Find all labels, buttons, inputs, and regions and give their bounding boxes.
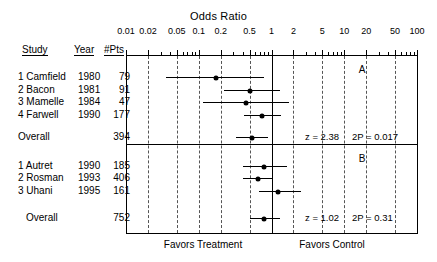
axis-tick [388, 52, 389, 55]
gridline [344, 56, 345, 233]
axis-tick [177, 50, 178, 55]
study-patients: 79 [104, 71, 130, 82]
study-year: 1980 [78, 71, 104, 82]
axis-tick [337, 52, 338, 55]
axis-tick [268, 52, 269, 55]
favors-treatment-label: Favors Treatment [164, 239, 242, 250]
axis-tick [195, 52, 196, 55]
study-name: 2 Bacon [18, 84, 55, 95]
study-patients: 161 [104, 185, 130, 196]
axis-tick-label: 0.01 [117, 26, 135, 36]
axis-tick [366, 50, 367, 55]
axis-tick [260, 52, 261, 55]
study-patients: 185 [104, 160, 130, 171]
axis-tick [322, 50, 323, 55]
study-name: 2 Rosman [18, 172, 64, 183]
effect-estimate-point [247, 88, 252, 93]
overall-z-statistic: z = 1.02 [305, 212, 339, 223]
axis-tick-label: 0.05 [168, 26, 186, 36]
gridline [177, 56, 178, 233]
overall-z-statistic: z = 2.38 [305, 131, 339, 142]
axis-tick [401, 52, 402, 55]
axis-tick-label: 2 [291, 26, 296, 36]
plot-right-border [417, 55, 418, 233]
axis-tick [161, 52, 162, 55]
axis-tick-label: 1 [269, 26, 274, 36]
study-year: 1990 [78, 160, 104, 171]
panel-letter-a: A [359, 64, 366, 75]
study-name: 1 Camfield [18, 71, 66, 82]
null-effect-line [272, 55, 273, 233]
axis-tick [414, 52, 415, 55]
forest-plot-figure: Odds Ratio 0.010.020.050.10.20.512510205… [0, 0, 437, 262]
study-name: 3 Mamelle [18, 96, 64, 107]
axis-tick [333, 52, 334, 55]
gridline [322, 56, 323, 233]
panel-letter-b: B [359, 153, 366, 164]
overall-label: Overall [26, 212, 58, 223]
study-patients: 47 [104, 96, 130, 107]
study-year: 1993 [78, 172, 104, 183]
axis-tick [379, 52, 380, 55]
axis-tick-label: 100 [409, 26, 424, 36]
axis-tick [255, 52, 256, 55]
gridline [250, 56, 251, 233]
study-patients: 177 [104, 109, 130, 120]
effect-estimate-point [213, 75, 218, 80]
gridline [221, 56, 222, 233]
column-header-study: Study [22, 44, 48, 56]
axis-tick [243, 52, 244, 55]
axis-tick [328, 52, 329, 55]
axis-tick [272, 50, 273, 55]
axis-bottom-line [126, 233, 418, 234]
axis-tick [250, 50, 251, 55]
axis-tick [341, 52, 342, 55]
gridline [395, 56, 396, 233]
axis-tick [315, 52, 316, 55]
effect-estimate-point [244, 100, 249, 105]
effect-estimate-point [262, 216, 267, 221]
study-name: 3 Uhani [18, 185, 52, 196]
axis-tick-label: 50 [390, 26, 400, 36]
effect-estimate-point [256, 176, 261, 181]
axis-tick [406, 52, 407, 55]
gridline [199, 56, 200, 233]
study-year: 1990 [78, 109, 104, 120]
study-patients: 91 [104, 84, 130, 95]
axis-tick-label: 10 [339, 26, 349, 36]
axis-tick-label: 0.5 [243, 26, 256, 36]
study-year: 1981 [78, 84, 104, 95]
column-header-year: Year [74, 44, 94, 56]
axis-tick-label: 0.1 [192, 26, 205, 36]
axis-tick [233, 52, 234, 55]
gridline [293, 56, 294, 233]
axis-tick [187, 52, 188, 55]
study-year: 1995 [78, 185, 104, 196]
axis-tick [344, 50, 345, 55]
effect-estimate-point [261, 164, 266, 169]
axis-tick [395, 50, 396, 55]
axis-tick [306, 52, 307, 55]
effect-estimate-point [260, 113, 265, 118]
axis-tick [264, 52, 265, 55]
gridline [148, 56, 149, 233]
study-name: 1 Autret [18, 160, 52, 171]
axis-tick-label: 5 [320, 26, 325, 36]
axis-tick-label: 0.02 [139, 26, 157, 36]
axis-tick [126, 50, 127, 55]
overall-patients: 752 [104, 212, 130, 223]
favors-control-label: Favors Control [299, 239, 365, 250]
axis-tick [293, 50, 294, 55]
column-header-npts: #Pts [104, 44, 124, 56]
overall-label: Overall [18, 131, 50, 142]
axis-tick [410, 52, 411, 55]
axis-tick [170, 52, 171, 55]
axis-tick [148, 50, 149, 55]
study-patients: 406 [104, 172, 130, 183]
axis-tick-label: 20 [361, 26, 371, 36]
effect-estimate-point [250, 135, 255, 140]
gridline [366, 56, 367, 233]
study-year: 1984 [78, 96, 104, 107]
overall-patients: 394 [104, 131, 130, 142]
overall-p-value: 2P = 0.017 [352, 131, 398, 142]
